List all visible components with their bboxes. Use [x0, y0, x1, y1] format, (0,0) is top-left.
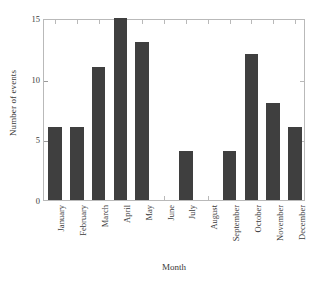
- bar: [288, 127, 302, 200]
- bar: [92, 67, 106, 200]
- bar: [179, 151, 193, 200]
- x-axis-tick-mark-top: [295, 20, 296, 24]
- y-axis-title-text: Number of events: [8, 69, 18, 135]
- y-axis-tick-label: 0: [20, 197, 40, 206]
- y-axis-tick-mark-right: [300, 81, 304, 82]
- x-axis-tick-mark: [164, 196, 165, 200]
- y-axis-tick-mark: [44, 81, 48, 82]
- x-axis-tick-mark-top: [55, 20, 56, 24]
- x-axis-tick-mark-top: [142, 20, 143, 24]
- y-axis-tick-label: 5: [20, 136, 40, 145]
- x-axis-title: Month: [43, 262, 305, 272]
- bar: [114, 18, 128, 200]
- y-axis-tick-labels: 051015: [20, 0, 40, 286]
- bar-chart-figure: Number of events 051015 JanuaryFebruaryM…: [0, 0, 322, 286]
- y-axis-tick-label: 15: [20, 15, 40, 24]
- bar: [266, 103, 280, 200]
- x-axis-tick-mark-top: [251, 20, 252, 24]
- plot-inner: [44, 20, 304, 200]
- bar: [223, 151, 237, 200]
- x-axis-tick-mark-top: [164, 20, 165, 24]
- plot-area: [43, 19, 305, 201]
- x-axis-tick-mark-top: [208, 20, 209, 24]
- x-axis-tick-mark-top: [99, 20, 100, 24]
- bar: [135, 42, 149, 200]
- bar: [245, 54, 259, 200]
- x-axis-tick-mark-top: [273, 20, 274, 24]
- y-axis-tick-label: 10: [20, 75, 40, 84]
- x-axis-tick-mark-top: [186, 20, 187, 24]
- bar: [70, 127, 84, 200]
- x-axis-tick-mark-top: [230, 20, 231, 24]
- bar: [48, 127, 62, 200]
- x-axis-tick-label: December: [298, 203, 322, 261]
- x-axis-tick-mark: [208, 196, 209, 200]
- x-axis-tick-labels: JanuaryFebruaryMarchAprilMayJuneJulyAugu…: [43, 203, 305, 261]
- x-axis-tick-mark-top: [77, 20, 78, 24]
